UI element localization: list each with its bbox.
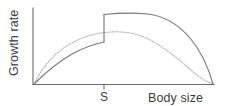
dotted-growth-curve <box>34 32 213 84</box>
solid-curve-post-switch <box>104 13 213 84</box>
solid-curve-pre-switch <box>34 42 104 84</box>
x-axis-tick-label-s: S <box>100 90 108 104</box>
growth-rate-vs-body-size-chart: Growth rate Body size S <box>0 0 228 106</box>
y-axis-label: Growth rate <box>7 10 21 76</box>
x-axis-label: Body size <box>148 91 203 105</box>
chart-plot-area: Growth rate Body size S <box>0 0 228 106</box>
